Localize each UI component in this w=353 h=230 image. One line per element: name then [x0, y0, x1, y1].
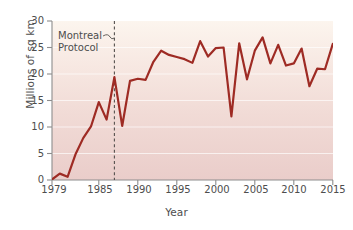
montreal-protocol-annotation: Montreal Protocol: [58, 30, 102, 53]
annotation-line-2: Protocol: [58, 42, 102, 54]
y-tick-marks: [47, 21, 52, 180]
plot-area: [0, 0, 353, 230]
annotation-line-1: Montreal: [58, 30, 102, 42]
x-tick-marks: [52, 180, 333, 185]
ozone-hole-area-chart: Millions of sq km Year 30 25 20 15 10 5 …: [0, 0, 353, 230]
